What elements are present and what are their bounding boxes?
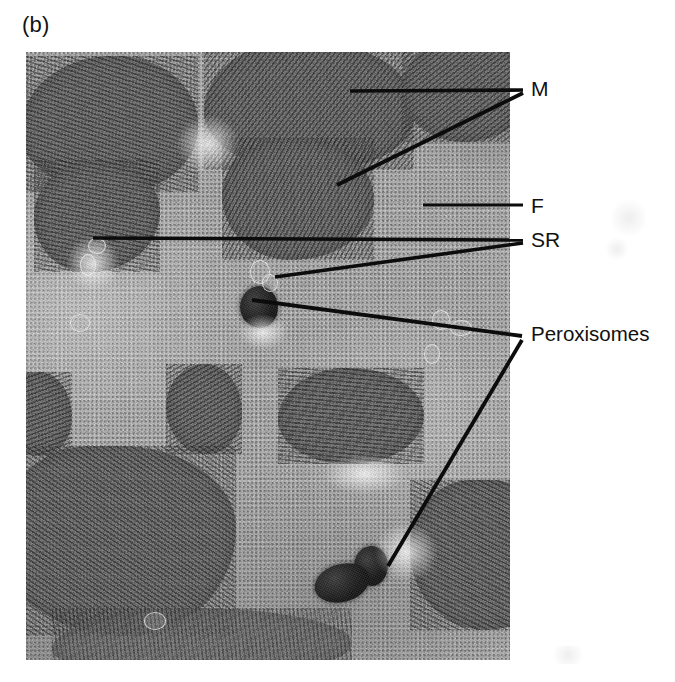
label-mitochondria: M (531, 78, 549, 99)
light-sarcoplasm-patch (374, 522, 438, 582)
mitochondrion-grain (52, 608, 352, 660)
scan-artifact (548, 646, 588, 664)
label-myofibril: F (531, 195, 544, 216)
electron-micrograph (26, 52, 510, 660)
scan-artifact (612, 196, 646, 240)
mitochondrion-grain (26, 372, 72, 456)
mitochondrion-grain (222, 138, 374, 260)
sarcoplasmic-reticulum-tubule (450, 320, 472, 336)
mitochondrion (166, 364, 242, 454)
sarcoplasmic-reticulum-tubule (144, 612, 166, 630)
mitochondrion-grain (166, 364, 242, 454)
mitochondrion (278, 368, 424, 464)
mitochondrion (222, 138, 374, 260)
scan-artifact (604, 238, 630, 260)
light-sarcoplasm-patch (238, 314, 288, 350)
label-peroxisomes: Peroxisomes (531, 324, 650, 345)
light-sarcoplasm-patch (176, 114, 240, 174)
sarcoplasmic-reticulum-tubule (70, 314, 90, 332)
light-sarcoplasm-patch (66, 236, 120, 292)
sarcoplasmic-reticulum-tubule (432, 310, 450, 330)
mitochondrion-grain (278, 368, 424, 464)
sarcoplasmic-reticulum-tubule (262, 274, 278, 292)
sarcoplasmic-reticulum-tubule (424, 344, 440, 364)
mitochondrion (26, 372, 72, 456)
panel-letter: (b) (22, 14, 50, 36)
light-sarcoplasm-patch (322, 454, 408, 494)
mitochondrion (52, 608, 352, 660)
label-sarcoplasmic-reticulum: SR (531, 229, 560, 250)
mitochondrion (402, 52, 510, 142)
mitochondrion-grain (402, 52, 510, 142)
